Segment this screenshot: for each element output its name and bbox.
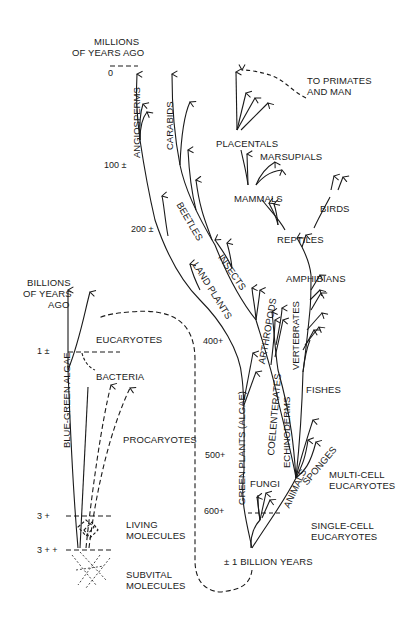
evolution-tree-diagram: MILLIONS OF YEARS AGO 0 100 ± 200 ± 400+… bbox=[0, 0, 407, 623]
label-blue-green-algae: BLUE-GREEN ALGAE bbox=[61, 352, 72, 448]
label-single-cell-1: SINGLE-CELL bbox=[311, 520, 374, 531]
tick-3bb: 3 + + bbox=[37, 545, 58, 555]
label-procaryotes: PROCARYOTES bbox=[123, 434, 197, 445]
tick-0: 0 bbox=[108, 68, 113, 78]
tick-100: 100 ± bbox=[104, 160, 126, 170]
label-living-1: LIVING bbox=[126, 519, 158, 530]
label-fungi: FUNGI bbox=[250, 478, 280, 489]
tick-400: 400+ bbox=[203, 336, 223, 346]
label-primates-2: AND MAN bbox=[307, 86, 352, 97]
label-vertebrates: VERTEBRATES bbox=[290, 301, 301, 370]
label-primates-1: TO PRIMATES bbox=[307, 75, 372, 86]
label-subvital-2: MOLECULES bbox=[126, 580, 186, 591]
label-angiosperms: ANGIOSPERMS bbox=[131, 87, 142, 158]
label-fishes: FISHES bbox=[306, 384, 341, 395]
label-carabids: CARABIDS bbox=[164, 101, 175, 150]
tick-3b: 3 + bbox=[37, 511, 50, 521]
label-subvital-1: SUBVITAL bbox=[126, 569, 172, 580]
label-mammals: MAMMALS bbox=[234, 193, 283, 204]
label-echinoderms: ECHINODERMS bbox=[281, 397, 292, 468]
billions-label-line1: BILLIONS bbox=[27, 277, 71, 288]
label-placentals: PLACENTALS bbox=[216, 138, 278, 149]
millions-label-line2: OF YEARS AGO bbox=[72, 47, 144, 58]
millions-label-line1: MILLIONS bbox=[94, 36, 139, 47]
label-amphibians: AMPHIBIANS bbox=[286, 273, 346, 284]
label-multi-cell-1: MULTI-CELL bbox=[329, 469, 385, 480]
label-single-cell-2: EUCARYOTES bbox=[311, 531, 377, 542]
label-reptiles: REPTILES bbox=[277, 234, 324, 245]
billions-label-line3: AGO bbox=[48, 299, 69, 310]
label-birds: BIRDS bbox=[320, 203, 350, 214]
label-origin: ± 1 BILLION YEARS bbox=[224, 556, 313, 567]
billions-label-line2: OF YEARS bbox=[23, 288, 72, 299]
tick-200: 200 ± bbox=[131, 224, 153, 234]
label-living-2: MOLECULES bbox=[126, 530, 186, 541]
label-multi-cell-2: EUCARYOTES bbox=[329, 480, 395, 491]
label-bacteria: BACTERIA bbox=[96, 371, 144, 382]
tick-500: 500+ bbox=[205, 450, 225, 460]
label-marsupials: MARSUPIALS bbox=[260, 151, 322, 162]
tick-600: 600+ bbox=[204, 506, 224, 516]
label-green-plants: GREEN PLANTS (ALGAE) bbox=[236, 391, 247, 505]
tick-1b: 1 ± bbox=[37, 346, 49, 356]
label-eucaryotes: EUCARYOTES bbox=[96, 334, 162, 345]
